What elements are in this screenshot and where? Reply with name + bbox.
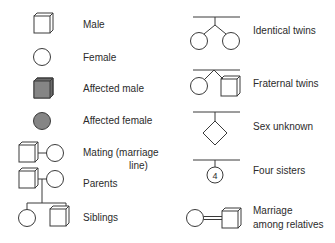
- label-sex-unknown: Sex unknown: [253, 121, 313, 133]
- label-mating-line2: line): [129, 160, 148, 172]
- label-consanguineous-line2: among relatives: [253, 219, 324, 231]
- label-affected-male: Affected male: [83, 83, 144, 95]
- label-four-sisters: Four sisters: [253, 165, 305, 177]
- siblings-symbol-icon: [19, 203, 70, 227]
- affected-female-circle-icon: [34, 113, 51, 130]
- fraternal-twins-symbol-icon: [191, 70, 241, 96]
- female-circle-icon: [34, 49, 51, 66]
- label-affected-female: Affected female: [83, 115, 152, 127]
- mating-symbol-icon: [19, 142, 64, 162]
- label-male: Male: [83, 19, 105, 31]
- label-siblings: Siblings: [83, 212, 118, 224]
- affected-male-square-icon: [34, 78, 53, 98]
- label-female: Female: [83, 52, 116, 64]
- parents-symbol-icon: [19, 168, 64, 203]
- label-parents: Parents: [83, 178, 117, 190]
- label-fraternal-twins: Fraternal twins: [253, 78, 319, 90]
- sex-unknown-diamond-icon: [193, 112, 240, 145]
- label-identical-twins: Identical twins: [253, 25, 316, 37]
- label-consanguineous-line1: Marriage: [253, 205, 292, 217]
- identical-twins-symbol-icon: [191, 17, 241, 50]
- male-square-icon: [34, 13, 53, 33]
- consanguineous-marriage-symbol-icon: [187, 208, 242, 228]
- label-mating-line1: Mating (marriage: [83, 147, 159, 159]
- four-sisters-number: 4: [212, 171, 217, 181]
